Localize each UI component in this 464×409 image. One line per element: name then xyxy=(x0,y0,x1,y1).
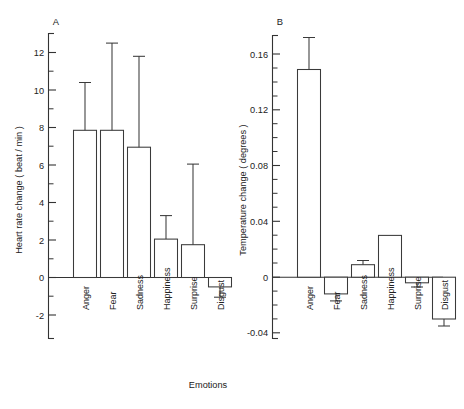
panel-a-tick-labels: 12 10 8 6 4 2 0 -2 xyxy=(34,48,44,321)
panel-b-bars xyxy=(298,70,456,320)
panel-a-ytick-6: 6 xyxy=(39,161,44,171)
panel-a-catlabel-surprise: Surprise xyxy=(189,276,199,310)
panel-b-bar-anger xyxy=(298,70,321,278)
panel-a-ytick-4: 4 xyxy=(39,198,44,208)
panel-b-ytick-008: 0.08 xyxy=(250,161,268,171)
panel-a-ytick-8: 8 xyxy=(39,123,44,133)
panel-a-ticks xyxy=(49,53,57,316)
panel-b-catlabel-surprise: Surprise xyxy=(413,276,423,310)
two-panel-bar-chart: A xyxy=(0,0,464,409)
panel-b-ticks xyxy=(273,54,281,333)
panel-a-bar-sadness xyxy=(128,147,151,277)
panel-b-ytick-neg004: -0.04 xyxy=(247,328,268,338)
panel-a-bar-surprise xyxy=(182,245,205,278)
panel-b-bar-fear xyxy=(325,277,348,294)
panel-a-ytick-10: 10 xyxy=(34,86,44,96)
panel-a-bar-fear xyxy=(101,130,124,277)
panel-b-catlabel-anger: Anger xyxy=(305,286,315,310)
panel-b: B xyxy=(238,16,456,339)
panel-b-y-axis-title: Temperature change ( degrees ) xyxy=(238,124,248,255)
panel-b-ytick-0: 0 xyxy=(263,273,268,283)
x-axis-title: Emotions xyxy=(189,380,228,390)
panel-b-catlabel-happiness: Happiness xyxy=(386,267,396,310)
panel-a-catlabel-sadness: Sadness xyxy=(135,274,145,310)
panel-a-catlabel-fear: Fear xyxy=(108,291,118,310)
panel-a-ytick-2: 2 xyxy=(39,236,44,246)
panel-b-label: B xyxy=(277,16,283,27)
panel-a-ytick-12: 12 xyxy=(34,48,44,58)
panel-b-tick-labels: 0.16 0.12 0.08 0.04 0 -0.04 xyxy=(247,50,268,339)
panel-a-label: A xyxy=(53,16,60,27)
panel-b-catlabel-sadness: Sadness xyxy=(359,274,369,310)
panel-a-bar-anger xyxy=(74,130,97,277)
panel-a-catlabel-disgust: Disgust xyxy=(216,279,226,310)
panel-a-ytick-0: 0 xyxy=(39,273,44,283)
figure-container: A xyxy=(0,0,464,409)
panel-b-ytick-016: 0.16 xyxy=(250,50,268,60)
panel-b-catlabel-fear: Fear xyxy=(332,291,342,310)
panel-a: A xyxy=(14,16,232,339)
panel-a-bars xyxy=(74,130,232,287)
panel-b-ytick-004: 0.04 xyxy=(250,217,268,227)
panel-a-ytick-neg2: -2 xyxy=(36,311,44,321)
panel-b-ytick-012: 0.12 xyxy=(250,105,268,115)
panel-a-catlabel-anger: Anger xyxy=(81,286,91,310)
panel-b-catlabel-disgust: Disgust xyxy=(440,279,450,310)
panel-a-y-axis-title: Heart rate change ( beat / min ) xyxy=(14,126,24,254)
panel-a-catlabel-happiness: Happiness xyxy=(162,267,172,310)
